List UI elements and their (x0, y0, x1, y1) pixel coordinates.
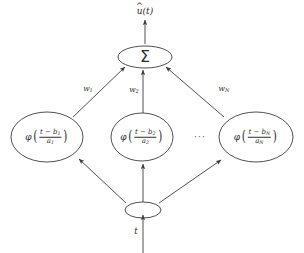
phi-symbol-n: φ (234, 133, 240, 142)
wavelet-n-denominator: aN (254, 138, 264, 146)
left-paren-1: ( (33, 130, 37, 144)
wavelet-n-expression: φ ( t − bN aN ) (234, 129, 278, 145)
weight-label-n: wN (219, 85, 230, 93)
diagram-canvas (0, 0, 304, 253)
right-paren-n: ) (273, 130, 277, 144)
ellipsis-label: ··· (194, 133, 206, 142)
hat-accent-icon: ^ (136, 1, 143, 10)
right-paren-1: ) (63, 130, 67, 144)
wavelet-network-diagram: ^u(t) Σ w1 w2 wN φ ( t − b1 a1 ) φ ( t −… (0, 0, 304, 253)
weight-label-1: w1 (83, 85, 93, 93)
wavelet-formula-1: φ ( t − b1 a1 ) (25, 129, 68, 145)
edge-input-to-waveletN (159, 160, 221, 203)
wavelet-2-num-sub: 2 (153, 131, 156, 136)
wavelet-formula-2: φ ( t − b2 a2 ) (120, 129, 163, 145)
wavelet-1-den-sub: 1 (51, 140, 54, 145)
edge-wavelet1-to-sum (73, 67, 125, 117)
output-label: ^u(t) (137, 7, 153, 16)
wavelet-1-fraction: t − b1 a1 (39, 129, 62, 145)
wavelet-2-denominator: a2 (141, 138, 150, 146)
wavelet-1-num-sub: 1 (58, 131, 61, 136)
wavelet-formula-n: φ ( t − bN aN ) (234, 129, 278, 145)
weight-1-subscript: 1 (90, 87, 93, 93)
wavelet-n-den-sub: N (259, 140, 263, 145)
wavelet-n-num-sub: N (266, 131, 270, 136)
output-argument: (t) (143, 6, 154, 16)
output-accent-wrap: ^u (137, 7, 143, 16)
summation-symbol: Σ (140, 49, 150, 65)
weight-label-2: w2 (129, 86, 139, 94)
edge-input-to-wavelet1 (79, 159, 126, 203)
wavelet-2-num-text: t − b (135, 128, 153, 136)
wavelet-1-denominator: a1 (46, 138, 55, 146)
left-paren-n: ( (241, 130, 245, 144)
edge-waveletN-to-sum (166, 67, 224, 117)
wavelet-n-fraction: t − bN aN (247, 129, 271, 145)
wavelet-1-expression: φ ( t − b1 a1 ) (25, 129, 68, 145)
phi-symbol-1: φ (25, 133, 31, 142)
input-label: t (134, 227, 137, 236)
right-paren-2: ) (158, 130, 162, 144)
phi-symbol-2: φ (120, 133, 126, 142)
wavelet-2-fraction: t − b2 a2 (134, 129, 157, 145)
wavelet-2-den-sub: 2 (146, 140, 149, 145)
weight-n-subscript: N (225, 87, 229, 93)
wavelet-n-num-text: t − b (248, 128, 266, 136)
wavelet-2-expression: φ ( t − b2 a2 ) (120, 129, 163, 145)
wavelet-1-num-text: t − b (40, 128, 58, 136)
weight-2-subscript: 2 (136, 88, 139, 94)
left-paren-2: ( (128, 130, 132, 144)
